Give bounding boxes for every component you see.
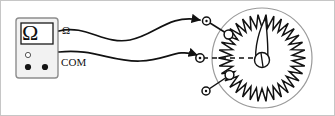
jack-com[interactable] — [42, 64, 48, 70]
com-terminal-label: COM — [61, 57, 86, 68]
meter-display-reading: Ω — [22, 22, 38, 44]
lead-omega — [59, 19, 200, 41]
omega-terminal-label: Ω — [62, 25, 70, 36]
pot-terminal-top-dot — [205, 20, 207, 22]
jack-omega[interactable] — [25, 64, 31, 70]
rotary-potentiometer — [196, 8, 312, 108]
figure-ohmmeter-potentiometer: Ω Ω COM — [0, 0, 335, 116]
pot-terminal-middle-dot — [199, 57, 202, 60]
pot-terminal-middle[interactable] — [196, 54, 204, 62]
pot-terminal-bottom-tap — [225, 71, 234, 80]
pot-terminal-bottom-dot — [205, 90, 207, 92]
pot-terminal-top-tap — [224, 30, 233, 39]
jack-upper[interactable] — [25, 52, 30, 57]
diagram-canvas — [0, 0, 335, 116]
